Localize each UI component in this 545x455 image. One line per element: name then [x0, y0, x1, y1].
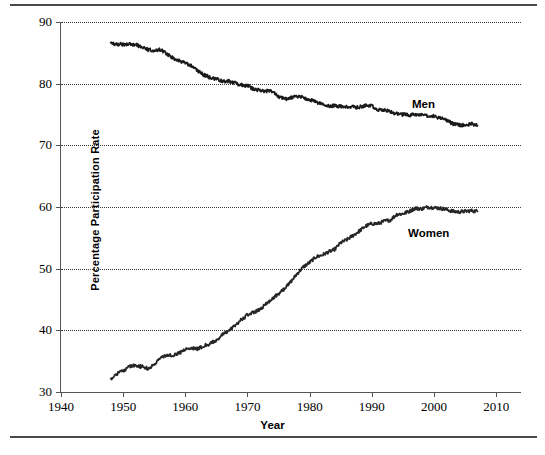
x-tick-label-2000: 2000	[407, 399, 461, 414]
x-tick-mark-1960	[185, 392, 186, 397]
y-tick-label-40: 40	[12, 323, 52, 336]
x-axis-line	[61, 392, 521, 393]
y-tick-label-80: 80	[12, 77, 52, 90]
x-tick-label-1950: 1950	[96, 399, 150, 414]
series-lines	[61, 22, 521, 392]
x-tick-mark-1950	[123, 392, 124, 397]
x-axis-title: Year	[0, 419, 545, 431]
x-tick-label-1980: 1980	[283, 399, 337, 414]
figure-top-rule	[10, 4, 537, 6]
figure-bottom-rule	[10, 436, 537, 438]
x-tick-label-1970: 1970	[220, 399, 274, 414]
y-tick-label-60: 60	[12, 200, 52, 213]
x-tick-label-1990: 1990	[345, 399, 399, 414]
x-tick-mark-1970	[247, 392, 248, 397]
y-tick-label-30: 30	[12, 385, 52, 398]
x-tick-mark-2010	[496, 392, 497, 397]
y-tick-label-50: 50	[12, 262, 52, 275]
y-axis-title: Percentage Participation Rate	[89, 90, 101, 330]
x-tick-mark-2000	[434, 392, 435, 397]
plot-area: Percentage Participation Rate	[61, 22, 521, 392]
x-tick-mark-1980	[310, 392, 311, 397]
x-tick-label-1940: 1940	[34, 399, 88, 414]
x-tick-label-1960: 1960	[158, 399, 212, 414]
x-tick-mark-1990	[372, 392, 373, 397]
x-tick-mark-1940	[61, 392, 62, 397]
series-label-men: Men	[412, 98, 435, 110]
y-tick-label-70: 70	[12, 138, 52, 151]
series-line-men	[111, 42, 478, 126]
x-tick-label-2010: 2010	[469, 399, 523, 414]
figure-container: 90807060504030 1940195019601970198019902…	[0, 0, 545, 455]
series-label-women: Women	[408, 227, 449, 239]
y-tick-label-90: 90	[12, 15, 52, 28]
